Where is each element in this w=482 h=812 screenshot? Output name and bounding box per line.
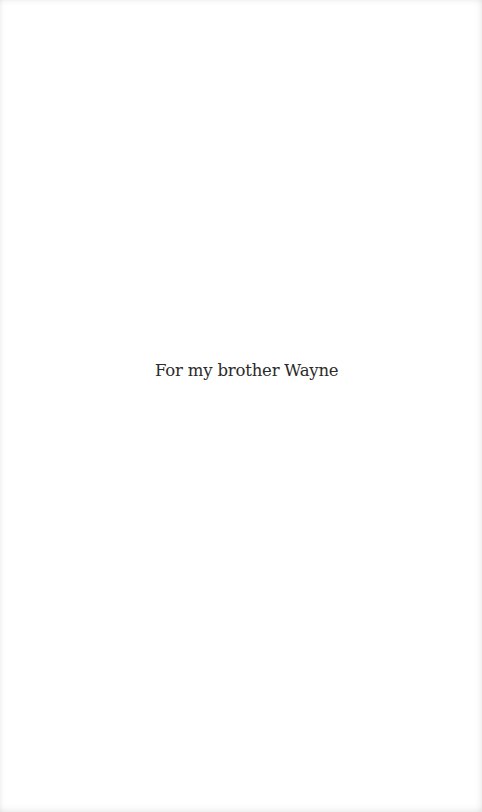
dedication-text: For my brother Wayne <box>155 360 338 382</box>
book-page: For my brother Wayne <box>0 0 482 812</box>
